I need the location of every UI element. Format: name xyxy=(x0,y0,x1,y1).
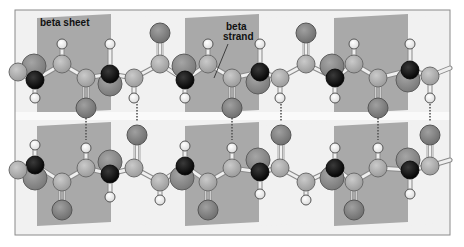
hydrogen-atom xyxy=(373,143,383,153)
hydrogen-atom xyxy=(255,39,265,49)
carbon-atom xyxy=(223,159,241,177)
carbon-atom xyxy=(297,173,315,191)
beta-strand-label-line2: strand xyxy=(223,32,254,42)
nitrogen-atom xyxy=(251,163,269,181)
carbon-atom xyxy=(297,55,315,73)
carbon-atom xyxy=(125,159,143,177)
carbon-atom xyxy=(151,55,169,73)
beta-sheet-figure: beta sheet beta strand xyxy=(0,0,464,247)
nitrogen-atom xyxy=(176,157,194,175)
dark-panel xyxy=(37,14,111,114)
beta-strand-label: beta strand xyxy=(223,22,254,42)
nitrogen-atom xyxy=(26,71,44,89)
carbon-atom xyxy=(199,173,217,191)
oxygen-atom xyxy=(52,200,72,220)
carbon-atom xyxy=(369,69,387,87)
carbon-atom xyxy=(345,173,363,191)
carbon-atom xyxy=(345,55,363,73)
nitrogen-atom xyxy=(401,61,419,79)
nitrogen-atom xyxy=(176,71,194,89)
hydrogen-atom xyxy=(180,93,190,103)
carbon-atom xyxy=(271,69,289,87)
carbon-atom xyxy=(223,69,241,87)
hydrogen-atom xyxy=(180,141,190,151)
carbon-atom xyxy=(199,55,217,73)
hydrogen-atom xyxy=(301,195,311,205)
hydrogen-atom xyxy=(30,93,40,103)
carbon-atom xyxy=(53,55,71,73)
carbon-atom xyxy=(125,69,143,87)
carbon-atom xyxy=(77,159,95,177)
carbon-atom xyxy=(421,157,439,175)
nitrogen-atom xyxy=(101,165,119,183)
nitrogen-atom xyxy=(326,69,344,87)
carbon-atom xyxy=(77,69,95,87)
hydrogen-atom xyxy=(203,39,213,49)
hydrogen-atom xyxy=(405,39,415,49)
oxygen-atom xyxy=(296,23,316,43)
nitrogen-atom xyxy=(401,161,419,179)
nitrogen-atom xyxy=(326,159,344,177)
oxygen-atom xyxy=(222,98,242,118)
hydrogen-atom xyxy=(425,93,435,103)
nitrogen-atom xyxy=(101,65,119,83)
carbon-atom xyxy=(151,173,169,191)
oxygen-atom xyxy=(127,125,147,145)
hydrogen-atom xyxy=(30,140,40,150)
carbon-atom xyxy=(369,159,387,177)
hydrogen-atom xyxy=(330,143,340,153)
hydrogen-atom xyxy=(155,195,165,205)
oxygen-atom xyxy=(150,23,170,43)
hydrogen-atom xyxy=(330,93,340,103)
carbon-atom xyxy=(9,161,27,179)
oxygen-atom xyxy=(344,200,364,220)
carbon-atom xyxy=(271,159,289,177)
hydrogen-atom xyxy=(349,39,359,49)
oxygen-atom xyxy=(76,98,96,118)
nitrogen-atom xyxy=(251,63,269,81)
hydrogen-atom xyxy=(405,189,415,199)
beta-sheet-label: beta sheet xyxy=(40,18,89,28)
hydrogen-atom xyxy=(81,143,91,153)
carbon-atom xyxy=(53,173,71,191)
hydrogen-atom xyxy=(105,192,115,202)
oxygen-atom xyxy=(198,200,218,220)
hydrogen-atom xyxy=(255,189,265,199)
nitrogen-atom xyxy=(26,156,44,174)
hydrogen-atom xyxy=(275,93,285,103)
hydrogen-atom xyxy=(129,93,139,103)
hydrogen-atom xyxy=(227,143,237,153)
oxygen-atom xyxy=(271,125,291,145)
carbon-atom xyxy=(421,67,439,85)
oxygen-atom xyxy=(420,125,440,145)
hydrogen-atom xyxy=(105,39,115,49)
oxygen-atom xyxy=(368,98,388,118)
hydrogen-atom xyxy=(57,39,67,49)
carbon-atom xyxy=(9,63,27,81)
